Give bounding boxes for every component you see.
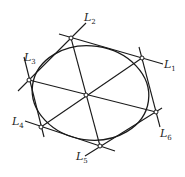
vertex-point-c	[154, 110, 158, 114]
label-l3: L3	[23, 51, 36, 66]
line-labels: L1L2L3L4L5L6	[11, 11, 176, 165]
tangent-lines	[18, 23, 163, 156]
vertex-point-d	[98, 144, 102, 148]
label-l6: L6	[159, 127, 172, 142]
label-l5: L5	[75, 150, 88, 165]
diagonal-lines	[29, 38, 156, 146]
vertex-point-e	[39, 125, 43, 129]
brianchon-diagram: L1L2L3L4L5L6	[0, 0, 185, 177]
concurrency-point	[84, 93, 88, 97]
diagonal-3	[29, 80, 156, 112]
label-l1: L1	[163, 58, 176, 73]
label-l2: L2	[83, 11, 96, 26]
diagram-canvas: L1L2L3L4L5L6	[0, 0, 185, 177]
diagonal-2	[41, 58, 142, 127]
vertex-point-a	[69, 36, 73, 40]
vertex-point-f	[27, 78, 31, 82]
vertex-point-b	[140, 56, 144, 60]
tangent-line-l1	[59, 34, 163, 64]
label-l4: L4	[11, 115, 24, 130]
